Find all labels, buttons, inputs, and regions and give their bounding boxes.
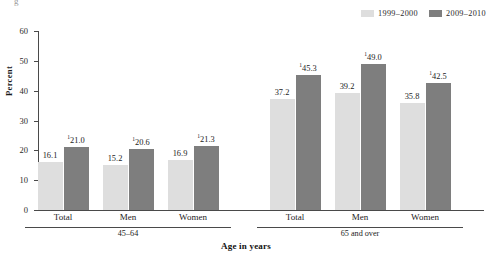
group-label-1: 65 and over — [341, 229, 380, 238]
bar-value-label: 16.1 — [43, 151, 58, 160]
legend-item-1999-2000[interactable]: 1999–2000 — [361, 9, 418, 18]
footnote-marker: 1 — [429, 70, 432, 76]
group-label-0: 45–64 — [118, 229, 138, 238]
category-label-2-women: Women — [179, 212, 207, 222]
category-label-1-men: Men — [120, 212, 137, 222]
bar-65-and-over-women-2009–2010[interactable]: 142.5 — [426, 83, 451, 210]
chart-legend: 1999–2000 2009–2010 — [361, 9, 486, 18]
bar-value-label: 142.5 — [429, 72, 446, 81]
plot-area: 0102030405060 16.1121.015.2120.616.9121.… — [38, 31, 484, 210]
y-tick-label-10: 10 — [20, 175, 29, 185]
bar-65-and-over-men-2009–2010[interactable]: 149.0 — [361, 64, 386, 210]
bar-45–64-men-2009–2010[interactable]: 120.6 — [129, 149, 154, 210]
bar-45–64-men-1999–2000[interactable]: 15.2 — [103, 165, 128, 210]
footnote-marker: 1 — [197, 134, 200, 140]
group-rule-1 — [257, 227, 463, 228]
category-label-5-women: Women — [411, 212, 439, 222]
x-axis-title: Age in years — [0, 241, 492, 251]
bar-65-and-over-women-1999–2000[interactable]: 35.8 — [400, 103, 425, 210]
bar-value-label: 145.3 — [299, 64, 316, 73]
footnote-marker: 1 — [364, 51, 367, 57]
y-tick-label-60: 60 — [20, 26, 29, 36]
category-labels: TotalMenWomenTotalMenWomen — [38, 212, 484, 226]
bar-45–64-women-2009–2010[interactable]: 121.3 — [194, 146, 219, 210]
bar-45–64-total-1999–2000[interactable]: 16.1 — [38, 162, 63, 210]
category-label-3-total: Total — [286, 212, 304, 222]
x-axis-line — [38, 210, 484, 211]
y-tick-label-20: 20 — [20, 145, 29, 155]
legend-swatch-2009-2010 — [429, 10, 442, 17]
bar-45–64-total-2009–2010[interactable]: 121.0 — [64, 147, 89, 210]
y-axis-title: Percent — [4, 66, 14, 96]
group-rule-0 — [25, 227, 231, 228]
bar-65-and-over-total-2009–2010[interactable]: 145.3 — [296, 75, 321, 210]
bar-value-label: 120.6 — [132, 138, 149, 147]
category-label-0-total: Total — [54, 212, 72, 222]
legend-label-1999-2000: 1999–2000 — [378, 9, 418, 18]
footnote-marker: 1 — [132, 136, 135, 142]
bar-value-label: 121.0 — [67, 136, 84, 145]
legend-label-2009-2010: 2009–2010 — [446, 9, 486, 18]
legend-swatch-1999-2000 — [361, 10, 374, 17]
bar-value-label: 16.9 — [173, 149, 188, 158]
y-tick-label-40: 40 — [20, 86, 29, 96]
bar-value-label: 15.2 — [108, 154, 123, 163]
bar-45–64-women-1999–2000[interactable]: 16.9 — [168, 160, 193, 210]
clipped-top-glyph: g — [14, 0, 19, 6]
bar-65-and-over-men-1999–2000[interactable]: 39.2 — [335, 93, 360, 210]
category-label-4-men: Men — [352, 212, 369, 222]
y-tick-label-0: 0 — [24, 205, 28, 215]
bars-layer: 16.1121.015.2120.616.9121.337.2145.339.2… — [38, 31, 484, 210]
footnote-marker: 1 — [299, 62, 302, 68]
y-tick-label-50: 50 — [20, 56, 29, 66]
bar-value-label: 121.3 — [197, 135, 214, 144]
bar-65-and-over-total-1999–2000[interactable]: 37.2 — [270, 99, 295, 210]
bar-value-label: 37.2 — [275, 88, 290, 97]
footnote-marker: 1 — [67, 135, 70, 141]
bar-value-label: 39.2 — [340, 82, 355, 91]
bar-chart: g 1999–2000 2009–2010 Percent 0102030405… — [0, 0, 492, 258]
bar-value-label: 149.0 — [364, 53, 381, 62]
legend-item-2009-2010[interactable]: 2009–2010 — [429, 9, 486, 18]
y-tick-0: 0 — [34, 210, 38, 211]
y-tick-label-30: 30 — [20, 116, 29, 126]
bar-value-label: 35.8 — [405, 92, 420, 101]
